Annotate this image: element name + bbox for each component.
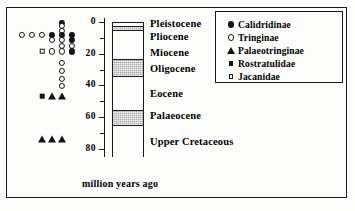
open-circle-icon: [228, 34, 234, 40]
fossil-occurrence-point: [59, 60, 65, 66]
legend-item: Palaeotringinae: [224, 45, 304, 56]
fossil-occurrence-point: [48, 136, 56, 143]
axis-tick-minor: [100, 133, 105, 134]
legend-item: Calidridinae: [224, 19, 291, 30]
epoch-band: [113, 110, 143, 126]
filled-triangle-icon: [58, 136, 66, 143]
open-square-icon: [40, 49, 45, 54]
filled-triangle-icon: [38, 136, 46, 143]
filled-triangle-icon: [48, 93, 56, 100]
fossil-occurrence-point: [58, 93, 66, 100]
axis-tick-label: 60: [64, 111, 96, 121]
fossil-occurrence-point: [38, 136, 46, 143]
epoch-label: Eocene: [150, 88, 183, 99]
fossil-occurrence-point: [29, 32, 35, 38]
fossil-occurrence-point: [40, 94, 45, 99]
axis-tick-label: 20: [64, 48, 96, 58]
epoch-band: [113, 77, 143, 110]
legend-item: Tringinae: [224, 32, 279, 43]
legend-label: Tringinae: [238, 32, 279, 43]
fossil-occurrence-point: [39, 32, 45, 38]
legend-item: Rostratulidae: [224, 58, 295, 69]
legend-item: Jacanidae: [224, 71, 280, 82]
legend-marker: [224, 34, 238, 40]
axis-tick-label: 40: [64, 79, 96, 89]
fossil-occurrence-point: [48, 93, 56, 100]
epoch-label: Pliocene: [150, 31, 189, 42]
epoch-label: Upper Cretaceous: [150, 136, 233, 147]
axis-caption: million years ago: [82, 178, 158, 189]
axis-tick-label: 80: [64, 143, 96, 153]
axis-tick-minor: [100, 38, 105, 39]
fossil-occurrence-point: [19, 32, 25, 38]
open-circle-icon: [59, 60, 65, 66]
axis-tick-major: [99, 54, 105, 55]
open-circle-icon: [29, 32, 35, 38]
filled-square-icon: [229, 61, 234, 66]
stratigraphic-column: [112, 22, 144, 157]
epoch-label: Oligocene: [150, 63, 196, 74]
legend-box: CalidridinaeTringinaePalaeotringinaeRost…: [215, 11, 343, 83]
epoch-label: Palaeocene: [150, 110, 201, 121]
epoch-band: [113, 126, 143, 158]
axis-tick-major: [99, 85, 105, 86]
axis-tick-minor: [100, 70, 105, 71]
epoch-label: Pleistocene: [150, 18, 201, 29]
filled-triangle-icon: [227, 47, 235, 54]
legend-label: Palaeotringinae: [238, 45, 304, 56]
fossil-occurrence-point: [58, 136, 66, 143]
filled-square-icon: [40, 94, 45, 99]
fossil-occurrence-point: [49, 48, 55, 54]
open-square-icon: [229, 74, 234, 79]
open-circle-icon: [59, 68, 65, 74]
legend-marker: [224, 74, 238, 79]
legend-label: Jacanidae: [238, 71, 280, 82]
filled-triangle-icon: [58, 93, 66, 100]
open-circle-icon: [49, 37, 55, 43]
legend-label: Rostratulidae: [238, 58, 295, 69]
axis-tick-major: [99, 22, 105, 23]
epoch-band: [113, 59, 143, 76]
stratigraphic-range-chart: 020406080 PleistocenePlioceneMioceneOlig…: [0, 0, 355, 211]
legend-label: Calidridinae: [238, 19, 291, 30]
filled-triangle-icon: [48, 136, 56, 143]
axis-tick-minor: [100, 101, 105, 102]
fossil-occurrence-point: [49, 37, 55, 43]
open-circle-icon: [19, 32, 25, 38]
axis-tick-major: [99, 149, 105, 150]
legend-marker: [224, 47, 238, 54]
epoch-band: [113, 31, 143, 59]
open-circle-icon: [49, 48, 55, 54]
legend-marker: [224, 21, 238, 27]
axis-tick-label: 0: [64, 16, 96, 26]
legend-marker: [224, 61, 238, 66]
fossil-occurrence-point: [40, 49, 45, 54]
filled-circle-icon: [228, 21, 234, 27]
fossil-occurrence-point: [59, 68, 65, 74]
axis-tick-major: [99, 117, 105, 118]
open-circle-icon: [39, 32, 45, 38]
epoch-label: Miocene: [150, 47, 189, 58]
